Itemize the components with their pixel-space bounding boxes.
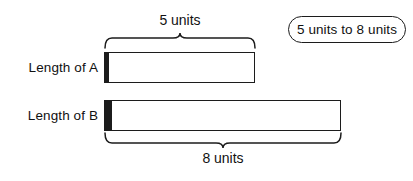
tape-cell-b <box>111 101 112 130</box>
brace-bottom-icon <box>101 132 345 152</box>
row-label-length-of-b: Length of B <box>8 108 98 123</box>
tape-bar-b <box>104 100 341 131</box>
row-label-length-of-a: Length of A <box>8 60 98 75</box>
tape-diagram-figure: 5 units Length of A Length of B 8 units <box>0 0 413 181</box>
brace-caption-top: 5 units <box>104 12 256 28</box>
brace-caption-bottom: 8 units <box>104 150 342 166</box>
tape-cell-a <box>108 53 109 82</box>
tape-bar-a <box>104 52 255 83</box>
ratio-callout-text: 5 units to 8 units <box>297 22 397 37</box>
brace-top-icon <box>101 33 259 53</box>
ratio-callout: 5 units to 8 units <box>288 16 406 43</box>
